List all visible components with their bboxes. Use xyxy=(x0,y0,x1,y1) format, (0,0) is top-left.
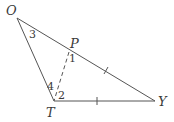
angle-label-4: 4 xyxy=(47,80,54,93)
angle-label-3: 3 xyxy=(29,28,36,41)
vertex-label-T: T xyxy=(46,105,56,120)
vertex-label-P: P xyxy=(69,36,79,51)
triangle-diagram: O P T Y 3 1 4 2 xyxy=(0,0,174,122)
angle-label-1: 1 xyxy=(69,52,76,65)
side-OY xyxy=(17,18,155,101)
angle-label-2: 2 xyxy=(58,89,65,102)
vertex-label-O: O xyxy=(6,3,17,18)
vertex-label-Y: Y xyxy=(158,94,168,109)
